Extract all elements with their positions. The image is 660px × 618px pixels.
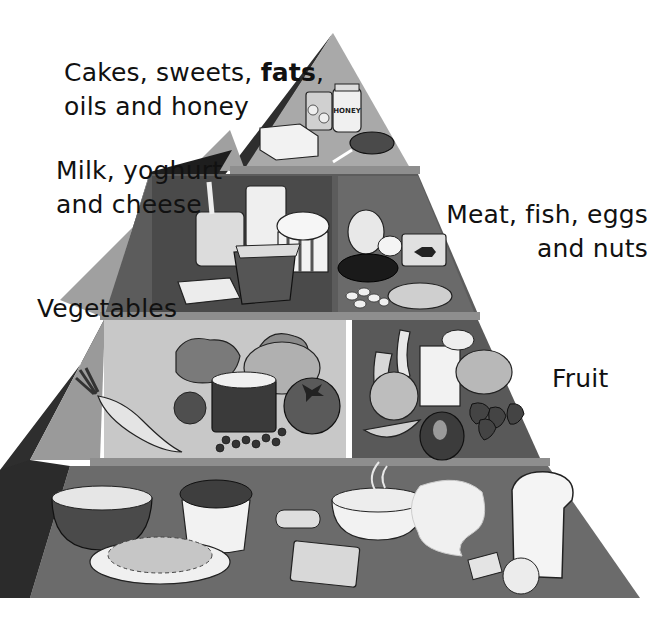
round-cracker-icon <box>503 558 539 594</box>
juice-carton-icon <box>420 346 460 406</box>
lollipop-icon <box>350 132 394 154</box>
peach-icon <box>370 372 418 420</box>
label-sweets-line2: oils and honey <box>64 92 249 121</box>
label-dairy-line2: and cheese <box>56 190 202 219</box>
label-sweets-fats: Cakes, sweets, fats, oils and honey <box>64 56 324 124</box>
label-fats-bold: fats <box>261 58 316 87</box>
chicken-drumstick-icon <box>388 283 452 309</box>
sausage-icon <box>338 254 398 282</box>
label-protein: Meat, fish, eggs and nuts <box>446 198 648 266</box>
label-fruit-text: Fruit <box>552 364 608 393</box>
label-sweets-part3: , <box>316 58 324 87</box>
cracker-icon <box>290 541 360 588</box>
tier-top-ledge <box>230 166 420 174</box>
biscuit-icon <box>276 510 320 528</box>
honey-label: HONEY <box>333 107 361 115</box>
broccoli-icon <box>174 392 206 424</box>
label-vegetables-text: Vegetables <box>37 294 177 323</box>
label-vegetables: Vegetables <box>37 292 177 326</box>
label-dairy-line1: Milk, yoghurt <box>56 156 222 185</box>
fruit-cup-icon <box>456 350 512 394</box>
label-protein-line2: and nuts <box>537 234 648 263</box>
label-fruit: Fruit <box>552 362 608 396</box>
label-protein-line1: Meat, fish, eggs <box>446 200 648 229</box>
tier-three-ledge <box>90 458 550 466</box>
label-dairy: Milk, yoghurt and cheese <box>56 154 222 222</box>
label-sweets-part1: Cakes, sweets, <box>64 58 261 87</box>
tomato-icon <box>284 378 340 434</box>
